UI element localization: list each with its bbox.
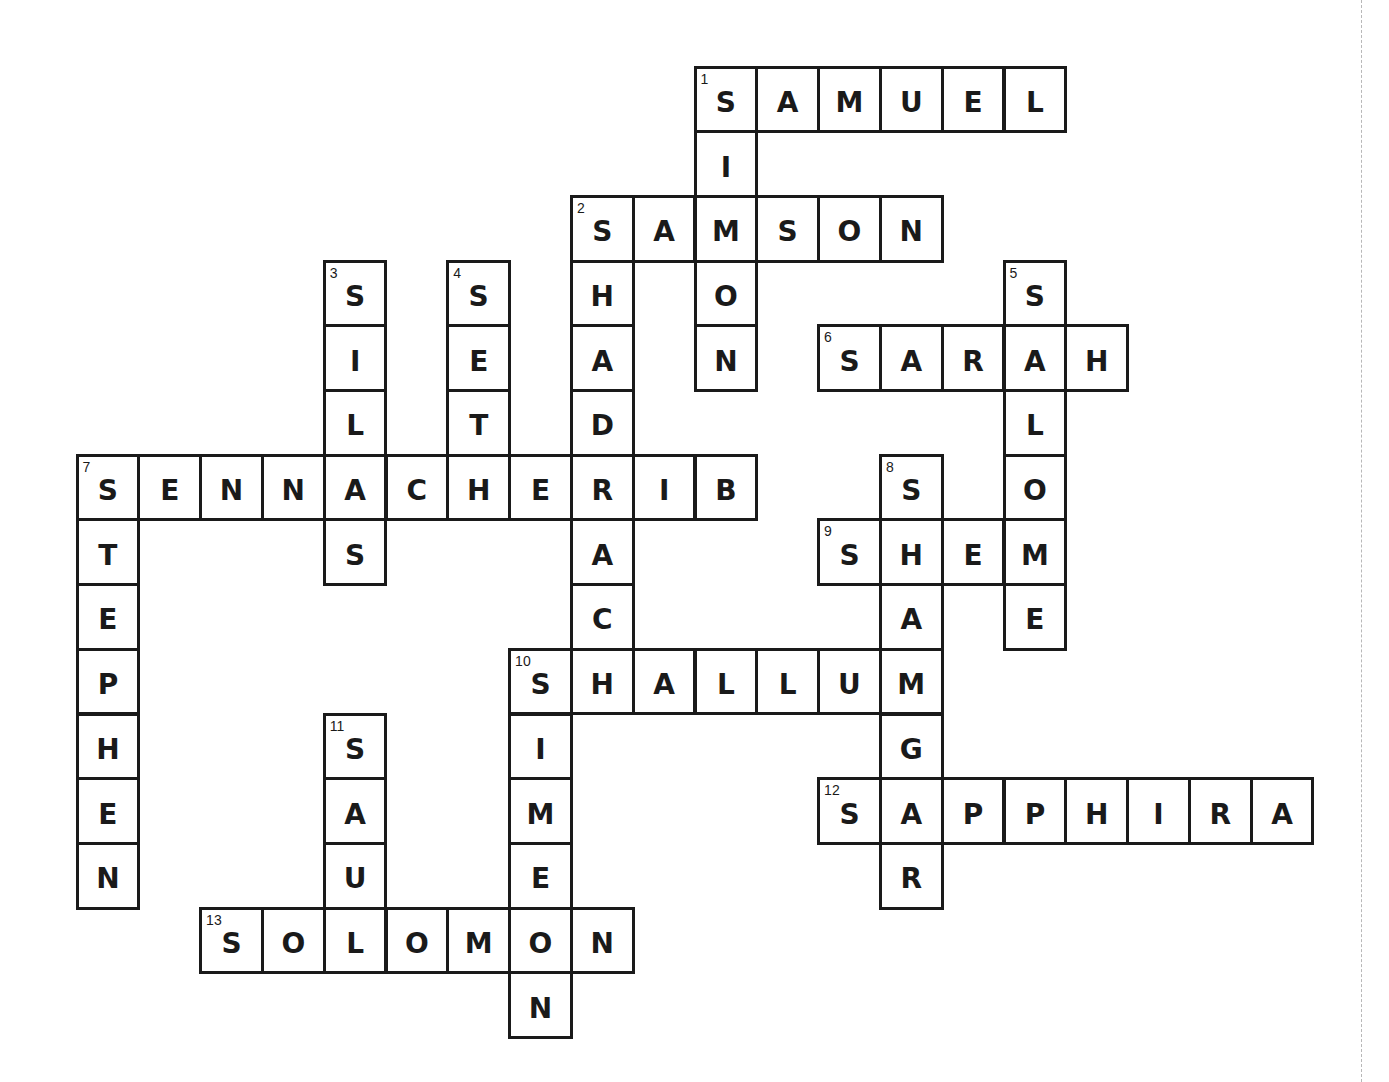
grid-cell[interactable]: D [570,389,635,457]
grid-cell[interactable]: 1S [694,66,759,134]
grid-cell[interactable]: S [323,518,388,586]
grid-cell[interactable]: O [817,195,882,263]
grid-cell[interactable]: P [941,777,1006,845]
grid-cell[interactable]: E [1003,583,1068,651]
grid-cell[interactable]: L [694,648,759,716]
grid-cell[interactable]: A [879,777,944,845]
grid-cell[interactable]: R [570,454,635,522]
grid-cell[interactable]: 13S [199,907,264,975]
grid-cell[interactable]: L [323,907,388,975]
grid-cell[interactable]: A [632,648,697,716]
grid-cell[interactable]: N [570,907,635,975]
grid-cell[interactable]: M [817,66,882,134]
grid-cell[interactable]: N [199,454,264,522]
grid-cell[interactable]: A [879,324,944,392]
grid-cell[interactable]: E [941,518,1006,586]
grid-cell[interactable]: L [755,648,820,716]
cell-letter: E [964,539,983,572]
grid-cell[interactable]: B [694,454,759,522]
grid-cell[interactable]: R [941,324,1006,392]
grid-cell[interactable]: E [508,454,573,522]
grid-cell[interactable]: M [879,648,944,716]
grid-cell[interactable]: 8S [879,454,944,522]
grid-cell[interactable]: N [879,195,944,263]
grid-cell[interactable]: O [261,907,326,975]
grid-cell[interactable]: A [570,518,635,586]
grid-cell[interactable]: E [137,454,202,522]
grid-cell[interactable]: I [323,324,388,392]
grid-cell[interactable]: A [1003,324,1068,392]
grid-cell[interactable]: U [323,842,388,910]
grid-cell[interactable]: M [694,195,759,263]
grid-cell[interactable]: E [76,583,141,651]
grid-cell[interactable]: H [570,260,635,328]
cell-letter: N [714,345,737,378]
grid-cell[interactable]: A [755,66,820,134]
grid-cell[interactable]: M [1003,518,1068,586]
clue-number: 8 [886,459,894,475]
grid-cell[interactable]: E [76,777,141,845]
grid-cell[interactable]: H [570,648,635,716]
grid-cell[interactable]: N [76,842,141,910]
grid-cell[interactable]: U [879,66,944,134]
clue-number: 13 [206,912,222,928]
grid-cell[interactable]: C [570,583,635,651]
grid-cell[interactable]: P [76,648,141,716]
grid-cell[interactable]: T [446,389,511,457]
grid-cell[interactable]: N [508,971,573,1039]
grid-cell[interactable]: P [1003,777,1068,845]
grid-cell[interactable]: E [446,324,511,392]
grid-cell[interactable]: I [1126,777,1191,845]
grid-cell[interactable]: O [694,260,759,328]
grid-cell[interactable]: N [694,324,759,392]
grid-cell[interactable]: T [76,518,141,586]
grid-cell[interactable]: L [1003,389,1068,457]
grid-cell[interactable]: A [323,454,388,522]
grid-cell[interactable]: H [879,518,944,586]
grid-cell[interactable]: H [446,454,511,522]
grid-cell[interactable]: A [632,195,697,263]
grid-cell[interactable]: O [508,907,573,975]
grid-cell[interactable]: R [879,842,944,910]
grid-cell[interactable]: 11S [323,713,388,781]
grid-cell[interactable]: M [508,777,573,845]
grid-cell[interactable]: C [385,454,450,522]
grid-cell[interactable]: 6S [817,324,882,392]
grid-cell[interactable]: I [694,130,759,198]
grid-cell[interactable]: 5S [1003,260,1068,328]
grid-cell[interactable]: N [261,454,326,522]
grid-cell[interactable]: 4S [446,260,511,328]
grid-cell[interactable]: L [323,389,388,457]
grid-cell[interactable]: 7S [76,454,141,522]
grid-cell[interactable]: A [323,777,388,845]
grid-cell[interactable]: A [879,583,944,651]
grid-cell[interactable]: G [879,713,944,781]
grid-cell[interactable]: 10S [508,648,573,716]
grid-cell[interactable]: M [446,907,511,975]
grid-cell[interactable]: H [1064,777,1129,845]
grid-cell[interactable]: A [1250,777,1315,845]
grid-cell[interactable]: R [1188,777,1253,845]
grid-cell[interactable]: U [817,648,882,716]
grid-cell[interactable]: S [755,195,820,263]
grid-cell[interactable]: I [632,454,697,522]
cell-letter: E [1025,603,1044,636]
cell-letter: M [1021,539,1049,572]
grid-cell[interactable]: O [1003,454,1068,522]
clue-number: 6 [824,329,832,345]
grid-cell[interactable]: 2S [570,195,635,263]
clue-number: 5 [1010,265,1018,281]
grid-cell[interactable]: H [1064,324,1129,392]
grid-cell[interactable]: H [76,713,141,781]
grid-cell[interactable]: 3S [323,260,388,328]
cell-letter: S [98,474,118,507]
grid-cell[interactable]: E [508,842,573,910]
grid-cell[interactable]: A [570,324,635,392]
grid-cell[interactable]: O [385,907,450,975]
grid-cell[interactable]: I [508,713,573,781]
grid-cell[interactable]: L [1003,66,1068,134]
grid-cell[interactable]: E [941,66,1006,134]
cell-letter: P [1025,798,1046,831]
grid-cell[interactable]: 9S [817,518,882,586]
grid-cell[interactable]: 12S [817,777,882,845]
